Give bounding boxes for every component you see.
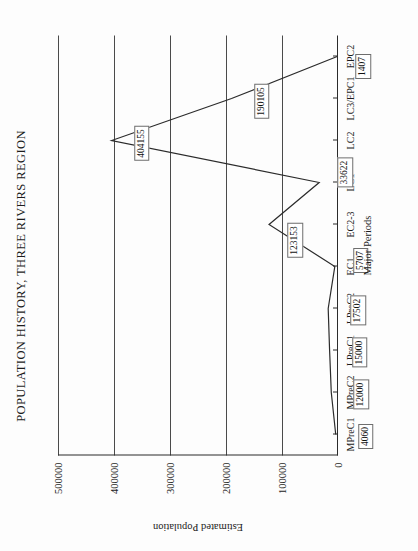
chart-figure-canvas: POPULATION HISTORY, THREE RIVERS REGION … (0, 0, 418, 551)
y-axis-title: Estimated Population (128, 522, 268, 533)
y-axis-tick-label: 500000 (53, 462, 64, 494)
plot-area: 0100000200000300000400000500000 MPreC1MP… (58, 35, 338, 455)
y-axis-tick-label: 200000 (221, 462, 232, 494)
data-point-value-text: 33622 (340, 160, 350, 184)
y-axis-tick-label: 300000 (165, 462, 176, 494)
data-point-value-label: 123153 (287, 223, 303, 258)
y-axis-tick-label: 100000 (277, 462, 288, 494)
chart-figure: POPULATION HISTORY, THREE RIVERS REGION … (0, 0, 418, 551)
data-point-value-label: 190105 (254, 84, 270, 119)
rotated-figure-wrapper: POPULATION HISTORY, THREE RIVERS REGION … (0, 0, 418, 551)
population-polyline (112, 56, 338, 434)
x-axis-title: Major Periods (362, 35, 373, 455)
y-axis-tick-label: 400000 (109, 462, 120, 494)
data-point-value-text: 404155 (137, 129, 147, 158)
x-axis-tick-label: EC2-3 (345, 211, 356, 237)
y-axis-tick-label: 0 (333, 462, 344, 467)
x-axis-tick-label: EPC2 (345, 44, 356, 67)
data-point-value-label: 404155 (134, 126, 150, 161)
data-point-value-text: 123153 (290, 226, 300, 255)
x-axis-tick-label: LC3/EPC1 (345, 76, 356, 120)
x-axis-tick-label: MPreC1 (345, 417, 356, 451)
data-point-value-text: 190105 (257, 87, 267, 116)
data-point-value-label: 33622 (337, 157, 353, 187)
chart-title: POPULATION HISTORY, THREE RIVERS REGION (14, 0, 29, 551)
x-axis-tick-label: LC2 (345, 131, 356, 149)
